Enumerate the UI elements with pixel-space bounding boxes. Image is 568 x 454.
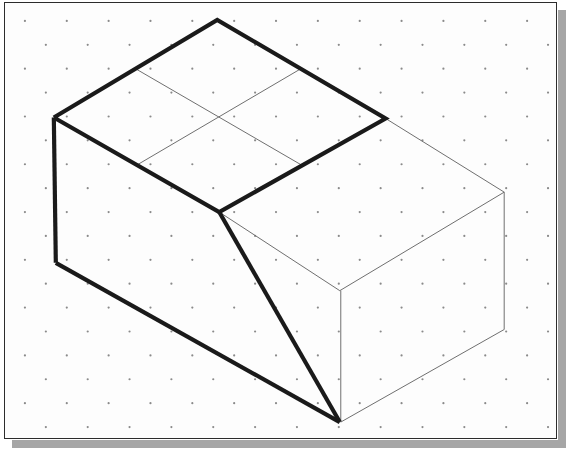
left-face-slope-edge: [56, 263, 340, 422]
left-vertical-edge: [54, 117, 56, 262]
right-face-bottom-edge: [341, 329, 504, 422]
screenshot-canvas: [0, 0, 568, 454]
frame-shadow-bottom: [12, 440, 566, 448]
isometric-block-drawing: [5, 3, 556, 438]
right-face-upper-diagonal: [340, 192, 504, 291]
isometric-sketch-frame: [4, 2, 557, 439]
frame-shadow-right: [558, 10, 566, 448]
right-face-front-diagonal: [219, 212, 340, 291]
right-face-top-edge: [386, 118, 505, 192]
